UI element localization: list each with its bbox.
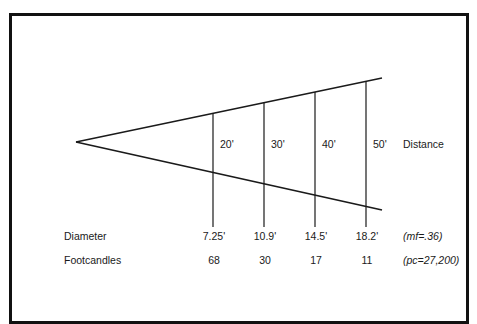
footcandles-note: (pc=27,200) [403,254,459,266]
distance-label-50: 50' [373,138,387,150]
cone-lower-edge [76,142,382,210]
diameter-value-20: 7.25' [203,230,225,242]
distance-label-30: 30' [271,138,285,150]
diameter-value-50: 18.2' [356,230,378,242]
footcandles-value-30: 30 [259,254,271,266]
distance-axis-label: Distance [403,138,444,150]
footcandles-row-label: Footcandles [64,254,121,266]
light-cone-diagram [0,0,477,324]
footcandles-value-20: 68 [208,254,220,266]
distance-label-40: 40' [322,138,336,150]
diameter-value-40: 14.5' [305,230,327,242]
footcandles-value-40: 17 [310,254,322,266]
diameter-value-30: 10.9' [254,230,276,242]
diameter-note: (mf=.36) [403,230,442,242]
diameter-row-label: Diameter [64,230,107,242]
distance-label-20: 20' [220,138,234,150]
cone-upper-edge [76,78,382,142]
footcandles-value-50: 11 [362,254,373,266]
